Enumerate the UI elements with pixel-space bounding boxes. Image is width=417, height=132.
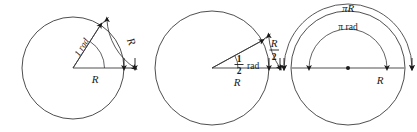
radius-label-panel3: R [376,74,384,86]
arc-label-denominator-panel2: 2 [272,52,277,62]
center-dot-panel3 [346,66,350,70]
radius-label-panel1: R [91,73,99,85]
angle-label-numerator-panel2: 1 [237,54,242,64]
inner-arc-panel3 [309,29,387,68]
angle-label-unit-panel2: rad [247,61,259,71]
arc-label-panel3: πR [342,2,355,14]
arc-label-numerator-panel2: R [270,37,278,49]
radian-figure-container: 1 rad R R 1 2 rad R [0,0,417,132]
angle-label-denominator-panel2: 2 [237,66,242,76]
radius-label-panel2: R [233,76,241,88]
panel-half-radian: 1 2 rad R R 2 [155,11,281,125]
angle-label-panel3: π rad [338,22,358,32]
arc-label-panel1: R [125,35,139,47]
radian-diagram: 1 rad R R 1 2 rad R [0,0,417,132]
angle-label-panel1: 1 rad [72,36,91,58]
panel-pi-radians: πR π rad R [284,2,412,125]
panel-one-radian: 1 rad R R [22,17,139,119]
interior-angle-arc-panel1 [90,42,105,69]
